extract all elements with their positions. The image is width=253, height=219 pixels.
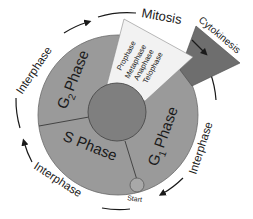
arc-bottom-right-arrow: [162, 178, 183, 194]
arc-top-left-arrow: [64, 22, 88, 33]
mitosis-label: Mitosis: [140, 5, 183, 27]
start-label: Start: [127, 194, 143, 203]
start-circle: [130, 178, 144, 192]
inner-circle: [88, 83, 146, 141]
arc-top: [98, 13, 136, 17]
arc-left: [16, 98, 20, 128]
arc-bottom: [102, 208, 130, 210]
arc-left-arrow: [24, 142, 32, 162]
cell-cycle-diagram: G2Phase S Phase G1Phase Prophase Metapha…: [0, 0, 253, 219]
